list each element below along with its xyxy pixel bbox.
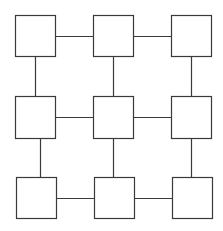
node-box-n32 xyxy=(95,178,135,219)
node-box-n31 xyxy=(17,178,57,219)
node-box-n13 xyxy=(172,16,212,57)
node-box-n12 xyxy=(94,16,134,57)
node-box-n33 xyxy=(173,178,213,219)
node-box-n21 xyxy=(16,97,56,139)
node-box-n23 xyxy=(172,97,212,139)
grid-diagram xyxy=(0,0,223,231)
node-box-n11 xyxy=(16,16,56,57)
node-box-n22 xyxy=(94,97,134,139)
nodes-group xyxy=(16,16,213,219)
